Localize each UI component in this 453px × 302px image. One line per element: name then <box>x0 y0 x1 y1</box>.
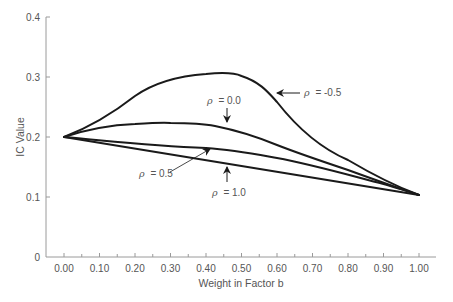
x-tick-label: 0.00 <box>54 263 74 274</box>
rho-symbol: ρ <box>206 95 213 106</box>
y-axis-label: IC Value <box>14 117 26 157</box>
annotation-value: = 1.0 <box>223 187 246 198</box>
annotation-rho-0-5: ρ = 0.5 <box>138 149 210 179</box>
x-tick-label: 1.00 <box>409 263 429 274</box>
svg-text:ρ = 1.0: ρ = 1.0 <box>211 187 246 198</box>
y-tick-label: 0.1 <box>26 192 40 203</box>
y-tick-label: 0 <box>34 252 40 263</box>
x-tick-label: 0.20 <box>125 263 145 274</box>
rho-symbol: ρ <box>303 87 310 98</box>
annotation-rho-0-0: ρ = 0.0 <box>206 95 241 122</box>
series-rho-0-0 <box>64 123 419 195</box>
rho-symbol: ρ <box>211 187 218 198</box>
ic-value-chart: 0.4 0.3 0.2 0.1 0 IC Value <box>0 0 453 302</box>
svg-text:ρ = -0.5: ρ = -0.5 <box>303 87 342 98</box>
y-tick-label: 0.4 <box>26 12 40 23</box>
x-tick-label: 0.10 <box>90 263 110 274</box>
y-tick-label: 0.3 <box>26 72 40 83</box>
y-tick-label: 0.2 <box>26 132 40 143</box>
annotation-value: = -0.5 <box>315 87 341 98</box>
x-tick-label: 0.40 <box>196 263 216 274</box>
x-tick-label: 0.80 <box>338 263 358 274</box>
annotation-rho-neg-0-5: ρ = -0.5 <box>277 87 342 98</box>
x-tick-label: 0.30 <box>161 263 181 274</box>
annotation-value: = 0.0 <box>218 95 241 106</box>
svg-text:ρ = 0.5: ρ = 0.5 <box>138 168 173 179</box>
annotation-value: = 0.5 <box>150 168 173 179</box>
x-tick-label: 0.60 <box>267 263 287 274</box>
y-axis: 0.4 0.3 0.2 0.1 0 IC Value <box>14 12 50 263</box>
x-tick-label: 0.90 <box>374 263 394 274</box>
x-axis-label: Weight in Factor b <box>198 277 283 289</box>
annotation-rho-1-0: ρ = 1.0 <box>211 167 246 198</box>
x-axis: 0.00 0.10 0.20 0.30 0.40 0.50 0.60 0.70 … <box>46 253 436 289</box>
rho-symbol: ρ <box>138 168 145 179</box>
x-tick-label: 0.70 <box>303 263 323 274</box>
svg-text:ρ = 0.0: ρ = 0.0 <box>206 95 241 106</box>
x-tick-label: 0.50 <box>232 263 252 274</box>
